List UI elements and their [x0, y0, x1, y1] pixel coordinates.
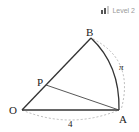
segment-PA [46, 85, 119, 110]
label-A: A [119, 113, 127, 125]
label-arc-length: π [119, 62, 124, 72]
label-B: B [86, 26, 93, 38]
sector-diagram: O A B P 4 π [0, 0, 139, 132]
label-O: O [9, 104, 17, 116]
label-radius: 4 [68, 119, 73, 129]
arc-AB [91, 38, 119, 110]
segment-OB [22, 38, 91, 110]
arc-dimension-arc [93, 39, 125, 110]
label-P: P [37, 76, 43, 88]
